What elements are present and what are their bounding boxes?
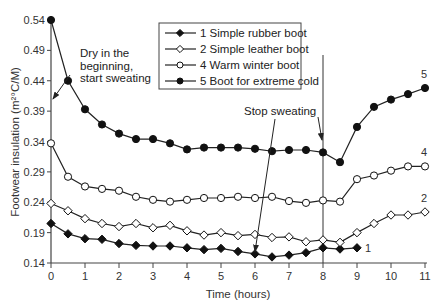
- diamond-filled-icon: [132, 241, 140, 249]
- diamond-filled-icon: [47, 219, 55, 227]
- circle-filled-icon: [251, 145, 258, 152]
- diamond-open-icon: [47, 199, 55, 207]
- annotation-arrow: [318, 117, 322, 140]
- diamond-filled-icon: [98, 235, 106, 243]
- diamond-filled-icon: [285, 251, 293, 259]
- diamond-filled-icon: [302, 248, 310, 256]
- circle-filled-icon: [132, 135, 139, 142]
- diamond-filled-icon: [200, 245, 208, 253]
- circle-filled-icon: [319, 149, 326, 156]
- legend-entry-label: 1 Simple rubber boot: [200, 27, 308, 39]
- circle-filled-icon: [234, 144, 241, 151]
- circle-open-icon: [251, 194, 258, 201]
- y-tick-label: 0.49: [24, 44, 45, 56]
- circle-open-icon: [98, 185, 105, 192]
- annotation-arrow: [53, 75, 70, 99]
- circle-filled-icon: [336, 159, 343, 166]
- y-tick-label: 0.24: [24, 196, 45, 208]
- circle-open-icon: [404, 163, 411, 170]
- y-tick-label: 0.29: [24, 166, 45, 178]
- circle-open-icon: [234, 193, 241, 200]
- circle-filled-icon: [183, 146, 190, 153]
- diamond-open-icon: [353, 228, 361, 236]
- circle-filled-icon: [404, 91, 411, 98]
- circle-filled-icon: [370, 103, 377, 110]
- x-tick-label: 0: [48, 270, 54, 282]
- x-tick-label: 10: [385, 270, 397, 282]
- circle-open-icon: [370, 172, 377, 179]
- circle-open-icon: [285, 197, 292, 204]
- legend-entry-label: 5 Boot for extreme cold: [200, 75, 319, 87]
- circle-open-icon: [302, 199, 309, 206]
- diamond-open-icon: [285, 233, 293, 241]
- diamond-filled-icon: [183, 244, 191, 252]
- x-tick-label: 11: [419, 270, 430, 282]
- circle-filled-icon: [81, 106, 88, 113]
- circle-filled-icon: [217, 144, 224, 151]
- diamond-open-icon: [404, 211, 412, 219]
- circle-open-icon: [177, 62, 183, 68]
- diamond-filled-icon: [115, 239, 123, 247]
- circle-open-icon: [319, 197, 326, 204]
- y-tick-label: 0.14: [24, 257, 45, 269]
- diamond-filled-icon: [64, 230, 72, 238]
- annotation-dry-text: beginning,: [80, 60, 133, 72]
- diamond-open-icon: [200, 231, 208, 239]
- diamond-open-icon: [319, 236, 327, 244]
- diamond-open-icon: [98, 219, 106, 227]
- diamond-filled-icon: [217, 244, 225, 252]
- circle-filled-icon: [166, 140, 173, 147]
- x-tick-label: 4: [184, 270, 190, 282]
- series-end-label: 5: [421, 68, 427, 80]
- circle-open-icon: [183, 196, 190, 203]
- circle-open-icon: [353, 176, 360, 183]
- x-tick-label: 6: [252, 270, 258, 282]
- diamond-filled-icon: [166, 242, 174, 250]
- circle-open-icon: [115, 187, 122, 194]
- x-tick-label: 3: [150, 270, 156, 282]
- circle-filled-icon: [98, 121, 105, 128]
- circle-open-icon: [200, 194, 207, 201]
- circle-open-icon: [81, 183, 88, 190]
- circle-open-icon: [149, 196, 156, 203]
- circle-open-icon: [47, 140, 54, 147]
- annotation-arrow: [255, 119, 275, 252]
- legend-entry-label: 2 Simple leather boot: [200, 43, 309, 55]
- diamond-filled-icon: [353, 244, 361, 252]
- circle-open-icon: [387, 167, 394, 174]
- diamond-open-icon: [302, 238, 310, 246]
- diamond-open-icon: [64, 207, 72, 215]
- x-tick-label: 8: [320, 270, 326, 282]
- circle-filled-icon: [421, 84, 428, 91]
- diamond-filled-icon: [268, 253, 276, 261]
- circle-filled-icon: [353, 123, 360, 130]
- diamond-open-icon: [132, 219, 140, 227]
- diamond-open-icon: [166, 221, 174, 229]
- circle-filled-icon: [285, 146, 292, 153]
- diamond-open-icon: [81, 214, 89, 222]
- circle-filled-icon: [200, 144, 207, 151]
- diamond-filled-icon: [81, 235, 89, 243]
- x-tick-label: 7: [286, 270, 292, 282]
- circle-filled-icon: [177, 78, 183, 84]
- circle-open-icon: [336, 198, 343, 205]
- x-tick-label: 5: [218, 270, 224, 282]
- circle-open-icon: [132, 193, 139, 200]
- diamond-open-icon: [421, 208, 429, 216]
- annotation-dry-text: Dry in the: [80, 47, 129, 59]
- diamond-open-icon: [217, 228, 225, 236]
- circle-open-icon: [421, 163, 428, 170]
- circle-open-icon: [166, 198, 173, 205]
- diamond-open-icon: [336, 238, 344, 246]
- y-tick-label: 0.39: [24, 105, 45, 117]
- diamond-filled-icon: [234, 247, 242, 255]
- annotation-stop-text: Stop sweating: [244, 105, 316, 117]
- y-tick-label: 0.34: [24, 136, 45, 148]
- legend-entry-label: 4 Warm winter boot: [200, 59, 300, 71]
- circle-filled-icon: [115, 130, 122, 137]
- diamond-open-icon: [387, 211, 395, 219]
- y-axis-title: Footwear insulation (m²°C/M): [9, 67, 21, 217]
- x-axis-title: Time (hours): [206, 288, 271, 300]
- diamond-open-icon: [149, 224, 157, 232]
- annotation-dry-text: start sweating: [80, 72, 151, 84]
